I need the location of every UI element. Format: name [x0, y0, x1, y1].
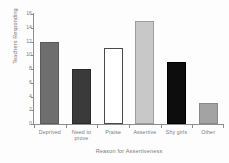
x-tick-label-line1: Shy girls: [166, 129, 187, 135]
x-axis-tick-labels: DeprivedNeed toprovePraiseAssertiveShy g…: [34, 129, 224, 147]
bar-chart-figure: Teachers Responding 0246810121416 Depriv…: [0, 0, 229, 163]
x-tick-mark: [66, 125, 67, 128]
bar: [104, 48, 123, 124]
x-tick-mark: [129, 125, 130, 128]
bar: [40, 42, 59, 125]
x-tick-label-line1: Other: [201, 129, 215, 135]
x-tick-label: Other: [192, 129, 224, 135]
bar: [135, 21, 154, 124]
x-tick-mark: [97, 125, 98, 128]
x-tick-label: Deprived: [34, 129, 66, 135]
x-tick-label-line1: Assertive: [133, 129, 156, 135]
x-tick-label: Need toprove: [66, 129, 98, 142]
bar: [72, 69, 91, 124]
bar: [199, 103, 218, 124]
x-tick-label: Assertive: [129, 129, 161, 135]
bar: [167, 62, 186, 124]
x-tick-label-line2: prove: [66, 135, 98, 141]
x-tick-mark: [161, 125, 162, 128]
x-tick-mark: [223, 125, 224, 128]
x-tick-label: Shy girls: [161, 129, 193, 135]
x-tick-label-line1: Deprived: [39, 129, 61, 135]
x-axis-title: Reason for Assertiveness: [34, 148, 224, 154]
x-tick-label-line1: Need to: [72, 129, 91, 135]
x-tick-label-line1: Praise: [105, 129, 121, 135]
x-tick-mark: [34, 125, 35, 128]
x-tick-mark: [192, 125, 193, 128]
plot-area: [34, 14, 224, 124]
x-tick-label: Praise: [97, 129, 129, 135]
